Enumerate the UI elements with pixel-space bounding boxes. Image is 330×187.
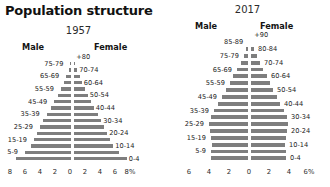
- bar-male: [229, 80, 249, 86]
- pyramid-row: 85-89: [189, 39, 309, 46]
- axis-1957: 864202468%: [10, 168, 135, 178]
- bar-male: [210, 114, 249, 120]
- bar-female: [250, 101, 281, 107]
- bar-female: [250, 155, 287, 161]
- female-label-1957: Female: [94, 42, 127, 52]
- axis-tick-label: 4: [38, 168, 42, 176]
- bar-male: [33, 137, 72, 142]
- bar-female: [250, 114, 288, 120]
- bar-female: [73, 124, 105, 129]
- bar-female: [250, 33, 252, 39]
- axis-tick-label: 8%: [125, 168, 136, 176]
- bar-male: [46, 112, 72, 117]
- female-label-2017: Female: [260, 21, 293, 31]
- axis-tick-label: 2: [53, 168, 57, 176]
- pyramid-row: 0-4: [189, 155, 309, 162]
- pyramid-row: +90: [189, 32, 309, 39]
- bar-female: [73, 93, 89, 98]
- panel-2017: 2017 Male Female +9085-8980-8475-7970-74…: [165, 0, 330, 187]
- bar-female: [73, 118, 102, 123]
- bar-female: [73, 55, 75, 60]
- pyramid-row: 75-79: [189, 52, 309, 59]
- bar-male: [225, 87, 249, 93]
- bar-female: [73, 61, 76, 66]
- bar-female: [73, 150, 120, 155]
- bar-male: [63, 80, 72, 85]
- bar-female: [73, 131, 108, 136]
- bar-female: [250, 60, 261, 66]
- axis-tick-label: 6: [187, 168, 191, 176]
- pyramid-row: 80-84: [189, 46, 309, 53]
- year-label-1957: 1957: [0, 25, 161, 36]
- bar-male: [213, 108, 249, 114]
- bar-male: [245, 46, 249, 52]
- bar-female: [73, 67, 78, 72]
- bar-male: [65, 74, 72, 79]
- bar-female: [250, 80, 271, 86]
- bar-male: [30, 143, 72, 148]
- bar-male: [42, 118, 72, 123]
- pyramid-row: 10-14: [189, 141, 309, 148]
- bar-female: [250, 142, 286, 148]
- bar-male: [36, 131, 72, 136]
- bar-male: [50, 105, 73, 110]
- bar-female: [250, 73, 268, 79]
- bar-female: [73, 86, 86, 91]
- bar-male: [210, 135, 249, 141]
- bar-male: [210, 149, 249, 155]
- population-structure-figure: Population structure 1957 Male Female +8…: [0, 0, 330, 187]
- bar-female: [73, 80, 83, 85]
- panel-1957: 1957 Male Female +8075-7970-7465-6960-64…: [0, 0, 165, 187]
- axis-tick-label: 4: [287, 168, 291, 176]
- axis-tick-label: 4: [207, 168, 211, 176]
- male-label-1957: Male: [22, 42, 44, 52]
- bar-male: [53, 99, 72, 104]
- bar-female: [250, 53, 258, 59]
- bar-male: [208, 121, 249, 127]
- bar-male: [24, 150, 72, 155]
- age-group-label: 0-4: [129, 155, 140, 163]
- bar-female: [73, 112, 99, 117]
- pyramid-row: 20-24: [189, 128, 309, 135]
- pyramid-row: 0-4: [10, 156, 135, 162]
- bar-male: [232, 73, 249, 79]
- bar-female: [250, 149, 287, 155]
- bar-female: [250, 94, 278, 100]
- bar-male: [211, 142, 249, 148]
- bar-male: [60, 86, 72, 91]
- male-label-2017: Male: [195, 21, 217, 31]
- bar-female: [250, 135, 287, 141]
- axis-2017: 6420246%: [189, 168, 309, 178]
- bar-female: [250, 39, 253, 45]
- bar-male: [221, 94, 249, 100]
- bar-female: [250, 67, 264, 73]
- year-label-2017: 2017: [165, 4, 330, 15]
- bar-female: [250, 87, 274, 93]
- axis-tick-label: 6: [23, 168, 27, 176]
- bar-female: [73, 137, 111, 142]
- bar-male: [68, 67, 73, 72]
- bar-male: [15, 156, 72, 161]
- axis-tick-label: 4: [98, 168, 102, 176]
- bar-male: [209, 128, 249, 134]
- pyramid-chart-2017: +9085-8980-8475-7970-7465-6960-6455-5950…: [189, 32, 309, 162]
- axis-tick-label: 6: [113, 168, 117, 176]
- bar-male: [210, 155, 249, 161]
- axis-tick-label: 2: [227, 168, 231, 176]
- bar-female: [73, 143, 114, 148]
- pyramid-chart-1957: +8075-7970-7465-6960-6455-5950-5445-4940…: [10, 54, 135, 162]
- axis-tick-label: 8: [8, 168, 12, 176]
- axis-tick-label: 2: [83, 168, 87, 176]
- bar-male: [236, 67, 249, 73]
- age-group-label: 0-4: [290, 154, 301, 162]
- bar-female: [73, 105, 95, 110]
- axis-tick-label: 2: [267, 168, 271, 176]
- pyramid-row: 70-74: [189, 59, 309, 66]
- bar-male: [39, 124, 72, 129]
- bar-male: [217, 101, 249, 107]
- bar-male: [240, 60, 249, 66]
- bar-female: [250, 46, 255, 52]
- axis-tick-label: 6%: [304, 168, 315, 176]
- axis-tick-label: 0: [68, 168, 72, 176]
- bar-female: [250, 108, 285, 114]
